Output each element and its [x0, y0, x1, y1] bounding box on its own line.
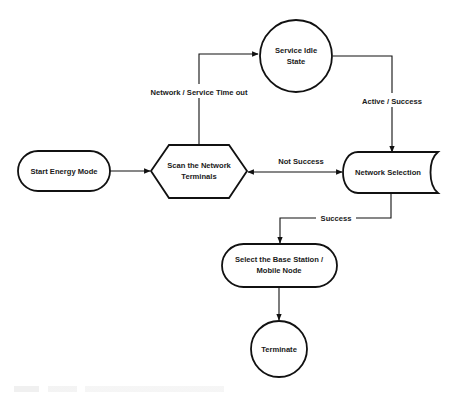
- node-scan-network-terminals: Scan the Network Terminals: [151, 145, 247, 198]
- edge-label-success: Success: [321, 214, 352, 223]
- edge-label-active-success: Active / Success: [362, 97, 422, 106]
- node-label: Scan the Network: [167, 161, 231, 170]
- node-network-selection: Network Selection: [343, 152, 438, 193]
- node-select-base-station: Select the Base Station / Mobile Node: [222, 244, 337, 287]
- edge-label-not-success: Not Success: [278, 157, 324, 166]
- node-label: Select the Base Station /: [235, 255, 324, 264]
- node-label: Terminals: [181, 172, 216, 181]
- node-label: State: [287, 57, 306, 66]
- node-label: Start Energy Mode: [30, 167, 97, 176]
- edge-label-timeout: Network / Service Time out: [151, 88, 248, 97]
- node-label: Mobile Node: [256, 266, 301, 275]
- node-label: Terminate: [261, 345, 297, 354]
- figure-caption-cropped: [14, 386, 224, 392]
- node-service-idle-state: Service Idle State: [260, 20, 332, 92]
- node-label: Network Selection: [355, 168, 421, 177]
- node-start-energy-mode: Start Energy Mode: [18, 151, 110, 191]
- edge-scan-to-idle: [199, 54, 258, 145]
- node-terminate: Terminate: [251, 321, 307, 377]
- flowchart-canvas: Network / Service Time out Active / Succ…: [0, 0, 453, 394]
- node-label: Service Idle: [275, 46, 317, 55]
